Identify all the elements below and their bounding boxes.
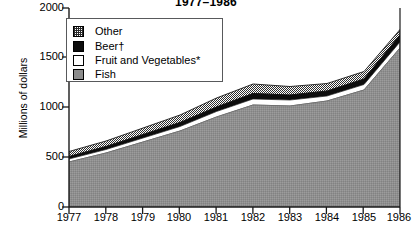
white-swatch-icon: [73, 55, 84, 66]
chart-container: 1977–1986 Millions of dollars 2000 1500 …: [0, 0, 412, 241]
black-swatch-icon: [73, 41, 84, 52]
legend-label: Beer†: [95, 40, 124, 52]
legend-item-beer: Beer†: [73, 39, 124, 53]
legend-item-fish: Fish: [73, 67, 116, 81]
legend-label: Fish: [95, 68, 116, 80]
gray-swatch-icon: [73, 69, 84, 80]
legend-item-other: Other: [73, 24, 123, 38]
legend-label: Other: [95, 25, 123, 37]
legend-label: Fruit and Vegetables*: [95, 54, 200, 66]
legend: Other Beer† Fruit and Vegetables* Fish: [66, 18, 223, 82]
checkered-swatch-icon: [73, 26, 84, 37]
legend-item-fruit-and-vegetables: Fruit and Vegetables*: [73, 53, 200, 67]
